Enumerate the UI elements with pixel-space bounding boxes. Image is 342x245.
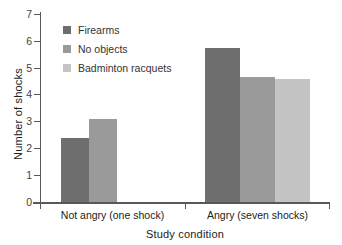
- x-axis-line: [33, 202, 330, 204]
- bar-angry-firearms: [205, 48, 240, 202]
- bar-chart: 7 6 5 4 3 2 1 0 Not angry (one shock) An…: [0, 0, 342, 245]
- legend-swatch-icon: [63, 26, 71, 34]
- x-axis-group-label-not-angry: Not angry (one shock): [40, 209, 185, 221]
- bar-not-angry-no-objects: [89, 119, 117, 202]
- legend-label: No objects: [78, 44, 128, 55]
- legend-label: Firearms: [78, 25, 119, 36]
- bar-angry-badminton-racquets: [275, 79, 310, 202]
- bar-not-angry-firearms: [61, 138, 89, 202]
- legend-label: Badminton racquets: [78, 63, 171, 74]
- chart-legend: Firearms No objects Badminton racquets: [63, 22, 171, 79]
- bar-angry-no-objects: [240, 77, 275, 202]
- legend-item-no-objects: No objects: [63, 41, 171, 57]
- y-axis-title: Number of shocks: [12, 39, 24, 189]
- x-axis-title: Study condition: [40, 228, 330, 240]
- x-axis-group-label-angry: Angry (seven shocks): [185, 209, 330, 221]
- legend-swatch-icon: [63, 64, 71, 72]
- legend-swatch-icon: [63, 45, 71, 53]
- legend-item-badminton-racquets: Badminton racquets: [63, 60, 171, 76]
- y-tick-label: 0: [6, 197, 32, 208]
- y-tick-label: 7: [6, 9, 32, 20]
- legend-item-firearms: Firearms: [63, 22, 171, 38]
